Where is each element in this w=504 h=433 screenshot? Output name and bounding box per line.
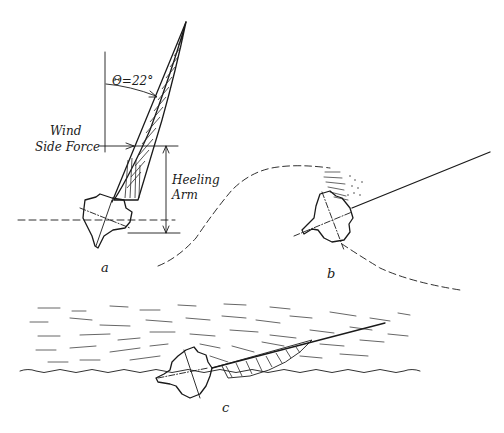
mast-b bbox=[352, 152, 490, 208]
hull-beam-b bbox=[294, 212, 352, 236]
panel-c: c bbox=[20, 304, 420, 415]
arm-label: Arm bbox=[171, 188, 198, 202]
wave-backside-b bbox=[342, 244, 460, 290]
hull-a bbox=[83, 194, 132, 248]
panel-a: Θ=22° Wind S bbox=[18, 22, 220, 275]
heeling-label: Heeling bbox=[171, 173, 220, 187]
wind-streaks bbox=[30, 304, 410, 362]
hull-axis-a bbox=[96, 200, 112, 246]
wind-label: Wind bbox=[50, 124, 82, 138]
heeling-diagram: Θ=22° Wind S bbox=[0, 0, 504, 433]
hull-b bbox=[302, 191, 353, 242]
hull-beam-a bbox=[80, 208, 130, 228]
waterline-c bbox=[20, 370, 420, 373]
panel-b-label: b bbox=[327, 266, 335, 281]
angle-label: Θ=22° bbox=[112, 74, 153, 88]
hull-axis-c bbox=[184, 350, 200, 398]
panel-c-label: c bbox=[222, 400, 230, 415]
spray bbox=[324, 172, 363, 200]
mast-c bbox=[212, 323, 385, 368]
panel-a-label: a bbox=[101, 260, 109, 275]
side-force-label: Side Force bbox=[35, 140, 100, 154]
